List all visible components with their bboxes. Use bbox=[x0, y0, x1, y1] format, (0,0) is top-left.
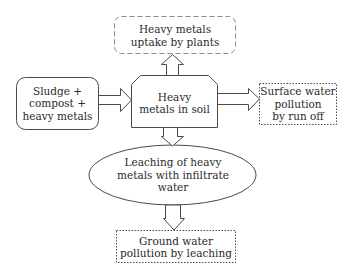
leaching-node-label: Leaching of heavy metals with infiltrate… bbox=[100, 146, 246, 204]
source-line-2: compost + bbox=[29, 97, 86, 110]
arrow-right-icon bbox=[99, 89, 132, 112]
uptake-node-label: Heavy metals uptake by plants bbox=[114, 17, 236, 54]
soil-node-label: Heavy metals in soil bbox=[131, 78, 218, 128]
soil-line-1: Heavy bbox=[158, 91, 192, 104]
arrow-right-icon bbox=[218, 89, 260, 111]
arrow-down-icon bbox=[164, 205, 185, 230]
leaching-line-3: water bbox=[158, 181, 189, 194]
leaching-line-1: Leaching of heavy bbox=[125, 156, 222, 169]
uptake-line-2: uptake by plants bbox=[131, 36, 220, 49]
source-node-label: Sludge + compost + heavy metals bbox=[16, 77, 99, 130]
ground-line-1: Ground water bbox=[139, 235, 213, 248]
surface-line-2: pollution bbox=[274, 98, 321, 111]
leaching-line-2: metals with infiltrate bbox=[117, 169, 229, 182]
ground-node-label: Ground water pollution by leaching bbox=[116, 231, 236, 263]
source-line-1: Sludge + bbox=[33, 85, 82, 98]
surface-line-3: by run off bbox=[272, 110, 324, 123]
uptake-line-1: Heavy metals bbox=[139, 23, 211, 36]
surface-node-label: Surface water pollution by run off bbox=[259, 83, 337, 125]
arrow-up-icon bbox=[162, 55, 184, 76]
soil-line-2: metals in soil bbox=[139, 103, 210, 116]
source-line-3: heavy metals bbox=[23, 110, 93, 123]
arrow-down-icon bbox=[162, 128, 184, 147]
surface-line-1: Surface water bbox=[260, 85, 335, 98]
heavy-metals-flow-diagram: Heavy metals uptake by plants Sludge + c… bbox=[0, 0, 352, 278]
ground-line-2: pollution by leaching bbox=[120, 247, 232, 260]
